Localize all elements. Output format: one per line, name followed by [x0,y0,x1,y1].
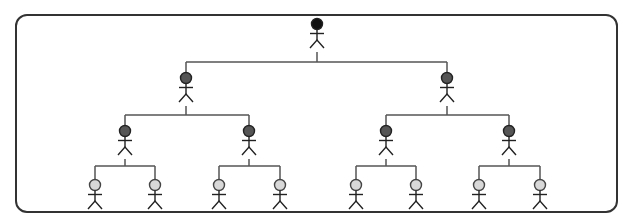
person-node-level-4 [148,180,162,210]
person-legs [88,201,102,209]
person-head-icon [214,180,225,191]
person-node-level-4 [88,180,102,210]
person-node-level-4 [273,180,287,210]
person-node-level-4 [533,180,547,210]
person-head-icon [442,73,453,84]
person-legs [118,147,132,155]
person-head-icon [275,180,286,191]
person-node-level-4 [212,180,226,210]
person-legs [148,201,162,209]
person-legs [212,201,226,209]
person-head-icon [504,126,515,137]
person-node-level-4 [349,180,363,210]
person-legs [502,147,516,155]
person-node-level-1 [310,19,324,49]
hierarchy-tree [0,0,634,223]
person-head-icon [381,126,392,137]
person-node-level-3 [379,126,393,156]
person-legs [409,201,423,209]
person-node-level-4 [409,180,423,210]
person-head-icon [411,180,422,191]
person-head-icon [120,126,131,137]
person-head-icon [90,180,101,191]
person-head-icon [535,180,546,191]
person-legs [273,201,287,209]
person-legs [179,94,193,102]
person-node-level-2 [440,73,454,103]
person-node-level-2 [179,73,193,103]
person-node-level-3 [242,126,256,156]
person-legs [310,40,324,48]
person-head-icon [312,19,323,30]
person-node-level-3 [118,126,132,156]
person-head-icon [150,180,161,191]
person-node-level-3 [502,126,516,156]
person-legs [472,201,486,209]
connector-lines [95,52,540,180]
person-legs [349,201,363,209]
person-head-icon [181,73,192,84]
person-legs [379,147,393,155]
person-head-icon [244,126,255,137]
person-node-level-4 [472,180,486,210]
person-legs [242,147,256,155]
person-head-icon [351,180,362,191]
person-head-icon [474,180,485,191]
person-legs [440,94,454,102]
person-legs [533,201,547,209]
